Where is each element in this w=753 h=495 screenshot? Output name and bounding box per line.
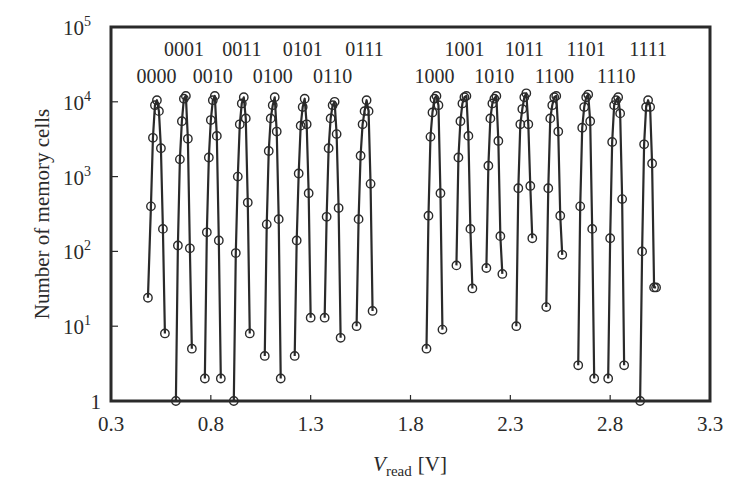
- state-label-1101: 1101: [567, 38, 606, 60]
- x-tick-label: 0.3: [98, 412, 124, 436]
- state-label-0000: 0000: [136, 65, 176, 87]
- series-1101: [574, 90, 598, 382]
- series-line: [325, 102, 341, 338]
- memory-cell-distribution-chart: 1101102103104105 0.30.81.31.82.32.83.3 0…: [0, 0, 753, 495]
- state-labels: 0000000100100011010001010110011110001001…: [136, 38, 667, 87]
- series-0001: [172, 92, 196, 406]
- state-label-1001: 1001: [444, 38, 484, 60]
- state-label-0110: 0110: [313, 65, 352, 87]
- series-line: [578, 95, 594, 379]
- state-label-1111: 1111: [629, 38, 667, 60]
- x-axis-title-sub: read: [386, 463, 412, 479]
- state-label-1100: 1100: [535, 65, 574, 87]
- state-label-1110: 1110: [597, 65, 636, 87]
- series-0011: [230, 93, 254, 405]
- series-1001: [452, 92, 476, 293]
- state-label-0100: 0100: [253, 65, 293, 87]
- series-line: [426, 96, 442, 349]
- series-layer: [144, 89, 661, 405]
- series-0111: [352, 96, 376, 330]
- series-line: [357, 100, 373, 326]
- x-tick-label: 2.8: [597, 412, 623, 436]
- x-tick-label: 3.3: [697, 412, 723, 436]
- series-1111: [636, 96, 660, 405]
- x-axis-title-unit: [V]: [418, 452, 447, 476]
- series-0010: [201, 92, 225, 383]
- x-axis-title: Vread[V]: [373, 452, 447, 479]
- series-1100: [542, 92, 566, 312]
- series-line: [265, 97, 281, 378]
- state-label-1000: 1000: [414, 65, 454, 87]
- state-label-0101: 0101: [283, 38, 323, 60]
- y-tick-label: 105: [63, 14, 91, 40]
- x-tick-label: 1.3: [298, 412, 324, 436]
- x-tick-label: 0.8: [198, 412, 224, 436]
- series-0101: [290, 95, 314, 361]
- series-0100: [261, 93, 285, 383]
- x-tick-label: 2.3: [497, 412, 523, 436]
- state-label-0111: 0111: [345, 38, 384, 60]
- state-label-0010: 0010: [193, 65, 233, 87]
- series-line: [295, 99, 311, 356]
- y-tick-label: 1: [91, 390, 102, 414]
- series-1000: [422, 92, 446, 353]
- state-label-0011: 0011: [222, 38, 261, 60]
- series-1110: [604, 93, 628, 383]
- y-axis-title: Number of memory cells: [30, 109, 54, 320]
- series-0110: [320, 98, 344, 342]
- y-tick-label: 104: [63, 89, 91, 115]
- series-1010: [482, 92, 506, 278]
- state-label-1010: 1010: [474, 65, 514, 87]
- y-tick-label: 101: [63, 313, 91, 339]
- y-tick-label: 103: [63, 164, 91, 190]
- x-tick-label: 1.8: [397, 412, 423, 436]
- series-1011: [512, 89, 536, 330]
- y-tick-label: 102: [63, 238, 91, 264]
- state-label-0001: 0001: [164, 38, 204, 60]
- series-0000: [144, 96, 169, 338]
- state-label-1011: 1011: [505, 38, 544, 60]
